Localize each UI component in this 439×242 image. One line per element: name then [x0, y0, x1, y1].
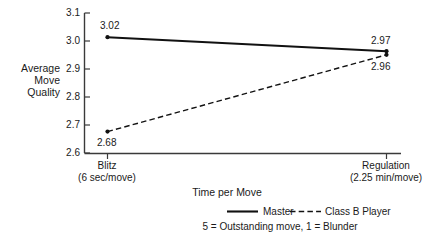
series-line-master	[108, 37, 387, 51]
legend-label-class-b-player: Class B Player	[325, 206, 391, 217]
x-category-blitz-name: Blitz	[47, 160, 167, 172]
data-point-master-blitz	[105, 35, 109, 39]
data-label-class-b-regulation: 2.96	[371, 62, 390, 72]
x-category-blitz: Blitz (6 sec/move)	[47, 160, 167, 184]
data-label-master-blitz: 3.02	[100, 21, 119, 31]
data-point-class-b-regulation	[384, 53, 388, 57]
x-category-regulation-sublabel: (2.25 min/move)	[326, 172, 439, 184]
x-category-regulation-name: Regulation	[326, 160, 439, 172]
legend-label-master: Master	[263, 206, 294, 217]
data-point-class-b-blitz	[105, 130, 109, 134]
x-axis-title: Time per Move	[167, 186, 287, 198]
x-category-regulation: Regulation (2.25 min/move)	[326, 160, 439, 184]
data-label-class-b-blitz: 2.68	[97, 138, 116, 148]
legend-note: 5 = Outstanding move, 1 = Blunder	[185, 221, 375, 232]
x-category-blitz-sublabel: (6 sec/move)	[47, 172, 167, 184]
data-point-master-regulation	[384, 49, 388, 53]
chart-figure: Average Move Quality 3.1 3.0 2.9 2.8 2.7…	[0, 0, 439, 242]
data-label-master-regulation: 2.97	[371, 36, 390, 46]
series-line-class-b-player	[108, 55, 387, 132]
